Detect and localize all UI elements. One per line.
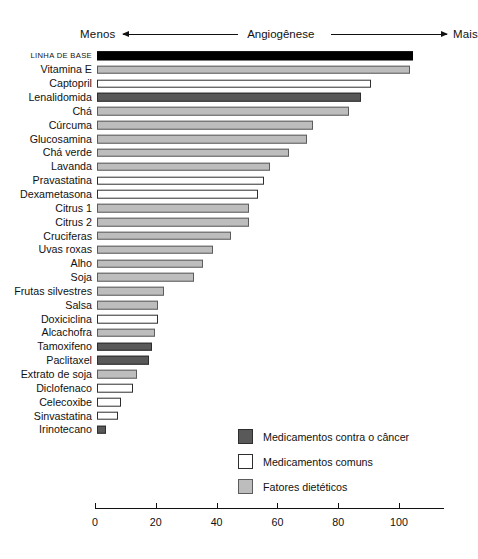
bar-label: Captopril bbox=[0, 78, 97, 89]
bar-row: Soja bbox=[0, 271, 478, 285]
x-axis-line bbox=[95, 508, 444, 509]
bar-label: Soja bbox=[0, 272, 97, 283]
bar-cancer bbox=[97, 93, 361, 102]
legend-item: Medicamentos contra o câncer bbox=[238, 424, 409, 449]
bar-track bbox=[97, 49, 478, 63]
bar-diet bbox=[97, 121, 313, 130]
legend-swatch-cancer bbox=[238, 429, 253, 444]
bar-label: Tamoxifeno bbox=[0, 341, 97, 352]
bar-row: Frutas silvestres bbox=[0, 284, 478, 298]
bar-common bbox=[97, 315, 158, 324]
bar-common bbox=[97, 398, 121, 407]
bar-track bbox=[97, 187, 478, 201]
axis-tick bbox=[338, 503, 339, 508]
bar-label: Citrus 1 bbox=[0, 203, 97, 214]
bar-track bbox=[97, 354, 478, 368]
bar-row: Lenalidomida bbox=[0, 91, 478, 105]
axis-tick-label: 100 bbox=[390, 516, 408, 528]
bar-label: Irinotecano bbox=[0, 424, 97, 435]
bar-track bbox=[97, 395, 478, 409]
bar-diet bbox=[97, 287, 164, 296]
chart-title: Angiogênese bbox=[238, 28, 323, 40]
bar-track bbox=[97, 271, 478, 285]
chart-header-scale: Menos Angiogênese Mais bbox=[0, 22, 478, 46]
bar-cancer bbox=[97, 342, 152, 351]
bar-label: Lavanda bbox=[0, 161, 97, 172]
bar-row: Doxiciclina bbox=[0, 312, 478, 326]
bar-label: Cúrcuma bbox=[0, 120, 97, 131]
bar-label: Uvas roxas bbox=[0, 244, 97, 255]
legend-swatch-common bbox=[238, 454, 253, 469]
bar-row: Alho bbox=[0, 257, 478, 271]
bar-row: Glucosamina bbox=[0, 132, 478, 146]
bar-diet bbox=[97, 329, 155, 338]
bar-track bbox=[97, 91, 478, 105]
angiogenesis-bar-chart: Menos Angiogênese Mais LINHA DE BASEVita… bbox=[0, 0, 478, 559]
bar-diet bbox=[97, 259, 203, 268]
bar-common bbox=[97, 79, 371, 88]
bar-track bbox=[97, 298, 478, 312]
bar-track bbox=[97, 63, 478, 77]
bar-row: Sinvastatina bbox=[0, 409, 478, 423]
bar-track bbox=[97, 118, 478, 132]
legend-item: Medicamentos comuns bbox=[238, 449, 409, 474]
bar-row: Extrato de soja bbox=[0, 367, 478, 381]
legend-label: Fatores dietéticos bbox=[263, 481, 347, 493]
bar-track bbox=[97, 367, 478, 381]
bar-common bbox=[97, 412, 118, 421]
bar-track bbox=[97, 326, 478, 340]
bar-label: Citrus 2 bbox=[0, 217, 97, 228]
legend-label: Medicamentos contra o câncer bbox=[263, 431, 409, 443]
bar-row: Citrus 1 bbox=[0, 201, 478, 215]
bar-diet bbox=[97, 273, 194, 282]
bar-label: Glucosamina bbox=[0, 134, 97, 145]
header-right-label: Mais bbox=[453, 28, 478, 40]
bar-diet bbox=[97, 107, 349, 116]
bar-label: Dexametasona bbox=[0, 189, 97, 200]
header-left-label: Menos bbox=[80, 28, 116, 40]
bar-track bbox=[97, 229, 478, 243]
axis-tick-label: 80 bbox=[332, 516, 344, 528]
axis-tick bbox=[277, 503, 278, 508]
legend-swatch-diet bbox=[238, 479, 253, 494]
bar-diet bbox=[97, 370, 137, 379]
bar-common bbox=[97, 384, 133, 393]
bar-label: Salsa bbox=[0, 300, 97, 311]
bar-diet bbox=[97, 162, 270, 171]
bar-label: Alho bbox=[0, 258, 97, 269]
bar-row: Alcachofra bbox=[0, 326, 478, 340]
bar-track bbox=[97, 104, 478, 118]
bar-track bbox=[97, 201, 478, 215]
bar-track bbox=[97, 381, 478, 395]
bar-diet bbox=[97, 301, 158, 310]
left-arrow-icon bbox=[123, 28, 239, 40]
bar-diet bbox=[97, 232, 231, 241]
legend-item: Fatores dietéticos bbox=[238, 474, 409, 499]
bar-label: Lenalidomida bbox=[0, 92, 97, 103]
bar-row: Diclofenaco bbox=[0, 381, 478, 395]
bar-track bbox=[97, 174, 478, 188]
bar-row: Paclitaxel bbox=[0, 354, 478, 368]
bar-diet bbox=[97, 135, 307, 144]
bar-label: Alcachofra bbox=[0, 327, 97, 338]
bar-label: Diclofenaco bbox=[0, 383, 97, 394]
bar-track bbox=[97, 215, 478, 229]
bar-diet bbox=[97, 65, 410, 74]
bar-label: Chá bbox=[0, 106, 97, 117]
bar-label: Vitamina E bbox=[0, 64, 97, 75]
bar-row: Pravastatina bbox=[0, 174, 478, 188]
bar-track bbox=[97, 132, 478, 146]
bar-common bbox=[97, 190, 258, 199]
bar-label: Celecoxibe bbox=[0, 397, 97, 408]
bar-track bbox=[97, 160, 478, 174]
bar-row: Dexametasona bbox=[0, 187, 478, 201]
bar-track bbox=[97, 146, 478, 160]
bar-row: Vitamina E bbox=[0, 63, 478, 77]
bar-track bbox=[97, 257, 478, 271]
bar-track bbox=[97, 243, 478, 257]
bar-row: Captopril bbox=[0, 77, 478, 91]
bar-diet bbox=[97, 245, 213, 254]
bar-track bbox=[97, 340, 478, 354]
axis-tick-label: 0 bbox=[92, 516, 98, 528]
bar-diet bbox=[97, 218, 249, 227]
